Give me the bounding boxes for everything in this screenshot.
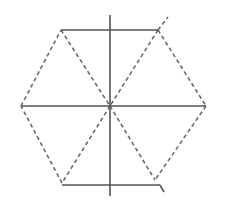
edge-bottomleft-left	[21, 106, 62, 183]
center-point	[109, 105, 111, 107]
diagonal-center-bottomleft	[62, 106, 110, 183]
edge-left-topleft	[21, 30, 61, 106]
edge-right-bottomright	[155, 106, 206, 180]
edge-topright-right	[158, 30, 206, 106]
diagonal-topright-center	[110, 30, 158, 106]
hexagon-construction-diagram: Hexagon constructed with dashed edges an…	[0, 0, 226, 201]
topright-extension	[158, 17, 168, 30]
diagram-canvas	[0, 0, 226, 201]
diagonal-center-bottomright	[110, 106, 155, 180]
bottom-line-hook	[160, 185, 164, 192]
diagonal-topleft-center	[61, 30, 110, 106]
